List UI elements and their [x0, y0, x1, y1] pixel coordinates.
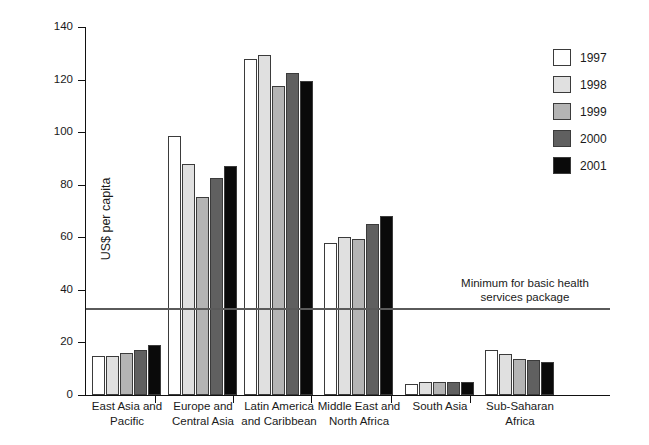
minimum-reference-line	[86, 308, 610, 310]
legend-item-label: 2000	[580, 133, 607, 145]
bar	[513, 359, 526, 395]
bar	[433, 382, 446, 395]
bar	[286, 73, 299, 395]
legend-item-label: 1999	[580, 106, 607, 118]
bar	[258, 55, 271, 395]
y-axis-tick-label: 140	[40, 21, 73, 33]
bar	[120, 353, 133, 395]
legend-swatch	[553, 49, 571, 66]
legend-item-label: 1998	[580, 79, 607, 91]
x-axis-group-separator	[470, 396, 471, 403]
y-axis-tick	[78, 80, 86, 81]
x-axis-group-separator	[155, 396, 156, 403]
legend-item[interactable]: 1998	[553, 71, 607, 98]
y-axis-tick-label-text: 100	[40, 126, 73, 137]
y-axis-tick	[78, 342, 86, 343]
bar	[338, 237, 351, 395]
bar	[196, 197, 209, 395]
y-axis-tick	[78, 27, 86, 28]
y-axis-tick-label-text: 60	[40, 231, 73, 242]
bar	[380, 216, 393, 395]
bar	[210, 178, 223, 395]
y-axis-tick	[78, 132, 86, 133]
bar	[499, 354, 512, 395]
y-axis-tick-label: 100	[40, 126, 73, 138]
y-axis-tick	[78, 185, 86, 186]
y-axis-tick-label-text: 140	[40, 21, 73, 32]
bar	[461, 382, 474, 395]
legend-item[interactable]: 1997	[553, 44, 607, 71]
bar	[419, 382, 432, 395]
legend-item[interactable]: 2000	[553, 125, 607, 152]
bar	[485, 350, 498, 395]
bar	[168, 136, 181, 395]
bar-group-bars	[244, 27, 313, 395]
bar	[352, 239, 365, 395]
y-axis-tick-label: 40	[40, 284, 73, 296]
y-axis-tick-label: 60	[40, 231, 73, 243]
legend-item[interactable]: 2001	[553, 152, 607, 179]
bar-group-bars	[324, 27, 393, 395]
bar	[324, 243, 337, 395]
y-axis-tick-label-text: 80	[40, 179, 73, 190]
bar	[182, 164, 195, 395]
x-axis-line	[85, 395, 610, 396]
bar	[527, 360, 540, 395]
bar-chart: 020406080100120140 US$ per capita East A…	[0, 0, 649, 445]
legend-swatch	[553, 157, 571, 174]
legend-item[interactable]: 1999	[553, 98, 607, 125]
bar-group-bars	[168, 27, 237, 395]
bar-group-bars	[92, 27, 161, 395]
bar	[272, 86, 285, 395]
y-axis-tick-label: 20	[40, 336, 73, 348]
y-axis-tick-label-text: 0	[40, 389, 73, 400]
bar	[244, 59, 257, 395]
bar	[405, 384, 418, 395]
bar-group-bars	[405, 27, 474, 395]
y-axis-tick-label-text: 20	[40, 336, 73, 347]
y-axis-tick	[78, 290, 86, 291]
bar	[92, 356, 105, 395]
y-axis-tick-label: 80	[40, 179, 73, 191]
x-axis-group-separator	[391, 396, 392, 403]
y-axis-tick	[78, 395, 86, 396]
legend-swatch	[553, 130, 571, 147]
y-axis-tick-label-text: 120	[40, 74, 73, 85]
bar	[148, 345, 161, 395]
minimum-reference-label: Minimum for basic health services packag…	[435, 276, 615, 304]
bar	[300, 81, 313, 395]
bar	[224, 166, 237, 395]
legend-swatch	[553, 103, 571, 120]
y-axis-tick	[78, 237, 86, 238]
x-axis-group-separator	[311, 396, 312, 403]
bar-group-bars	[485, 27, 554, 395]
x-axis-group-separator	[233, 396, 234, 403]
legend-item-label: 1997	[580, 52, 607, 64]
x-axis-category-label: Sub-Saharan Africa	[468, 399, 572, 428]
bar	[541, 362, 554, 395]
legend-swatch	[553, 76, 571, 93]
bar	[134, 350, 147, 395]
bar	[447, 382, 460, 395]
legend-item-label: 2001	[580, 160, 607, 172]
chart-legend: 19971998199920002001	[553, 44, 607, 179]
y-axis-tick-label: 120	[40, 74, 73, 86]
y-axis-tick-label-text: 40	[40, 284, 73, 295]
y-axis-tick-label: 0	[40, 389, 73, 401]
bar	[106, 356, 119, 395]
